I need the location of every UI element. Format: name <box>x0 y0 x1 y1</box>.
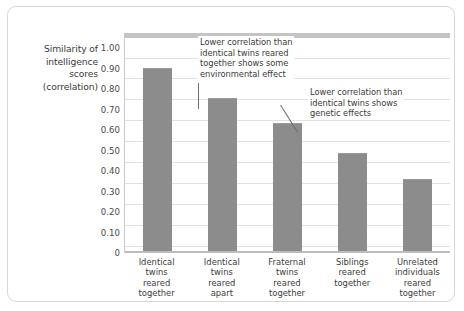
x-axis-labels: Identicaltwinsrearedtogether Identicaltw… <box>124 257 450 299</box>
x-label-line: twins <box>255 267 318 277</box>
x-label-line: together <box>255 288 318 298</box>
y-axis-title-line: (correlation) <box>14 81 98 94</box>
bar-unrelated-individuals-reared-together <box>403 179 432 251</box>
x-label-fraternal-twins-reared-together: Fraternaltwinsrearedtogether <box>254 257 319 299</box>
annotation-line: identical twins shows <box>310 98 402 109</box>
x-label-line: twins <box>190 267 253 277</box>
y-axis-title-line: Similarity of <box>14 43 98 56</box>
x-label-line: together <box>321 278 384 288</box>
x-label-line: Siblings <box>321 257 384 267</box>
bar-siblings-reared-together <box>338 153 367 251</box>
annotation-environmental-effect: Lower correlation than identical twins r… <box>198 36 294 80</box>
x-label-line: reared <box>125 278 188 288</box>
x-label-line: reared <box>386 278 449 288</box>
chart-card: Similarity of intelligence scores (corre… <box>7 6 455 302</box>
y-tick-label: 0.40 <box>94 166 120 176</box>
x-label-line: reared <box>255 278 318 288</box>
x-label-identical-twins-reared-apart: Identicaltwinsrearedapart <box>189 257 254 299</box>
axis-baseline <box>125 251 450 253</box>
y-axis-title: Similarity of intelligence scores (corre… <box>14 43 98 93</box>
annotation-genetic-effects: Lower correlation than identical twins s… <box>308 86 404 120</box>
annotation-line: Lower correlation than <box>200 37 292 48</box>
y-axis-title-line: intelligence <box>14 56 98 69</box>
x-label-siblings-reared-together: Siblingsrearedtogether <box>320 257 385 299</box>
bar-slot <box>385 38 450 251</box>
y-tick-label: 0.20 <box>94 207 120 217</box>
y-tick-label: 0.60 <box>94 125 120 135</box>
y-tick-label: 0.90 <box>94 64 120 74</box>
x-label-unrelated-individuals-reared-together: Unrelatedindividualsrearedtogether <box>385 257 450 299</box>
x-label-line: reared <box>190 278 253 288</box>
y-axis-title-line: scores <box>14 68 98 81</box>
bar-identical-twins-reared-together <box>143 68 172 251</box>
x-label-line: individuals <box>386 267 449 277</box>
x-label-line: reared <box>321 267 384 277</box>
x-label-identical-twins-reared-together: Identicaltwinsrearedtogether <box>124 257 189 299</box>
x-label-line: Identical <box>190 257 253 267</box>
annotation-line: genetic effects <box>310 108 402 119</box>
y-tick-label: 0 <box>94 248 120 258</box>
annotation-line: Lower correlation than <box>310 87 402 98</box>
x-label-line: together <box>386 288 449 298</box>
y-tick-label: 0.10 <box>94 228 120 238</box>
x-label-line: Unrelated <box>386 257 449 267</box>
x-label-line: Identical <box>125 257 188 267</box>
annotation-line: environmental effect <box>200 69 292 80</box>
y-tick-label: 1.00 <box>94 43 120 53</box>
y-tick-label: 0.30 <box>94 187 120 197</box>
y-tick-label: 0.50 <box>94 146 120 156</box>
annotation-line: identical twins reared <box>200 48 292 59</box>
y-tick-label: 0.70 <box>94 105 120 115</box>
annotation-line: together shows some <box>200 58 292 69</box>
bar-slot <box>125 38 190 251</box>
x-label-line: Fraternal <box>255 257 318 267</box>
x-label-line: twins <box>125 267 188 277</box>
bar-slot <box>320 38 385 251</box>
bar-identical-twins-reared-apart <box>208 98 237 251</box>
bar-fraternal-twins-reared-together <box>273 123 302 251</box>
x-label-line: together <box>125 288 188 298</box>
x-label-line: apart <box>190 288 253 298</box>
y-tick-label: 0.80 <box>94 84 120 94</box>
y-axis-ticks: 1.00 0.90 0.80 0.70 0.60 0.50 0.40 0.30 … <box>94 48 120 253</box>
annotation-leader-line-1 <box>198 83 199 109</box>
